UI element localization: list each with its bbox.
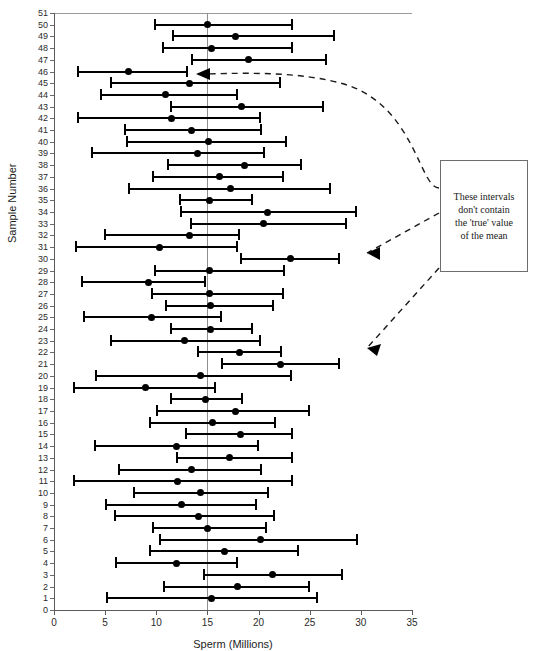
y-tick-label: 8 [43, 512, 48, 521]
interval-lower-cap [152, 171, 154, 182]
y-tick-label: 10 [38, 488, 48, 497]
y-tick-label: 2 [43, 582, 48, 591]
interval-mean-point [264, 209, 271, 216]
interval-lower-cap [167, 159, 169, 170]
y-tick-label: 44 [38, 90, 48, 99]
interval-upper-cap [259, 335, 261, 346]
interval-bar [110, 82, 281, 84]
confidence-interval-row [54, 493, 412, 494]
y-tick-label: 7 [43, 524, 48, 533]
interval-lower-cap [165, 300, 167, 311]
x-tick-label: 30 [355, 617, 366, 628]
y-tick-label: 26 [38, 301, 48, 310]
confidence-interval-row [54, 317, 412, 318]
confidence-interval-row [54, 165, 412, 166]
interval-lower-cap [154, 19, 156, 30]
y-tick-label: 3 [43, 570, 48, 579]
interval-mean-point [148, 314, 155, 321]
interval-mean-point [227, 185, 234, 192]
confidence-interval-row [54, 551, 412, 552]
interval-bar [179, 199, 254, 201]
confidence-interval-row [54, 177, 412, 178]
x-tick-label: 0 [51, 617, 57, 628]
interval-lower-cap [191, 54, 193, 65]
x-tick [105, 610, 106, 615]
interval-mean-point [168, 115, 175, 122]
interval-upper-cap [282, 288, 284, 299]
interval-upper-cap [251, 323, 253, 334]
interval-mean-point [208, 595, 215, 602]
y-tick-label: 38 [38, 161, 48, 170]
interval-upper-cap [238, 229, 240, 240]
interval-lower-cap [162, 42, 164, 53]
y-tick-label: 34 [38, 208, 48, 217]
interval-upper-cap [220, 311, 222, 322]
interval-lower-cap [91, 147, 93, 158]
interval-upper-cap [255, 499, 257, 510]
interval-mean-point [174, 478, 181, 485]
confidence-interval-row [54, 423, 412, 424]
interval-lower-cap [151, 288, 153, 299]
y-tick-label: 12 [38, 465, 48, 474]
interval-upper-cap [297, 545, 299, 556]
confidence-interval-row [54, 399, 412, 400]
interval-lower-cap [185, 428, 187, 439]
interval-upper-cap [280, 346, 282, 357]
y-tick-label: 37 [38, 172, 48, 181]
interval-bar [73, 480, 293, 482]
y-tick-label: 13 [38, 453, 48, 462]
interval-upper-cap [236, 89, 238, 100]
y-tick-label: 11 [39, 477, 48, 486]
interval-upper-cap [259, 112, 261, 123]
interval-mean-point [188, 127, 195, 134]
interval-bar [104, 234, 240, 236]
confidence-interval-row [54, 388, 412, 389]
interval-mean-point [208, 45, 215, 52]
interval-mean-point [226, 454, 233, 461]
interval-mean-point [245, 56, 252, 63]
interval-upper-cap [325, 54, 327, 65]
confidence-interval-row [54, 598, 412, 599]
interval-upper-cap [333, 30, 335, 41]
interval-lower-cap [203, 569, 205, 580]
interval-lower-cap [81, 276, 83, 287]
confidence-interval-row [54, 306, 412, 307]
interval-bar [100, 94, 238, 96]
confidence-interval-row [54, 189, 412, 190]
y-tick-label: 9 [43, 500, 48, 509]
annotation-box: These intervals don't contain the 'true'… [440, 160, 528, 272]
interval-bar [95, 375, 292, 377]
y-tick-label: 40 [38, 137, 48, 146]
interval-lower-cap [170, 323, 172, 334]
interval-lower-cap [179, 194, 181, 205]
confidence-interval-row [54, 25, 412, 26]
x-tick-label: 15 [202, 617, 213, 628]
interval-lower-cap [170, 101, 172, 112]
confidence-interval-row [54, 329, 412, 330]
confidence-interval-row [54, 294, 412, 295]
interval-lower-cap [126, 136, 128, 147]
y-tick-label: 50 [38, 20, 48, 29]
interval-upper-cap [283, 265, 285, 276]
interval-mean-point [260, 220, 267, 227]
interval-mean-point [206, 197, 213, 204]
interval-lower-cap [128, 183, 130, 194]
interval-mean-point [202, 396, 209, 403]
interval-lower-cap [110, 77, 112, 88]
confidence-interval-row [54, 505, 412, 506]
y-tick-label: 24 [38, 325, 48, 334]
y-tick-label: 21 [38, 360, 48, 369]
y-tick-label: 17 [38, 407, 48, 416]
confidence-interval-row [54, 107, 412, 108]
interval-upper-cap [291, 475, 293, 486]
interval-upper-cap [260, 464, 262, 475]
y-tick-label: 39 [38, 149, 48, 158]
confidence-interval-row [54, 235, 412, 236]
y-tick-label: 0 [43, 606, 48, 615]
y-axis-title: Sample Number [6, 164, 18, 243]
interval-upper-cap [251, 194, 253, 205]
y-tick-label: 14 [38, 442, 48, 451]
interval-mean-point [194, 150, 201, 157]
interval-mean-point [287, 255, 294, 262]
confidence-interval-row [54, 575, 412, 576]
